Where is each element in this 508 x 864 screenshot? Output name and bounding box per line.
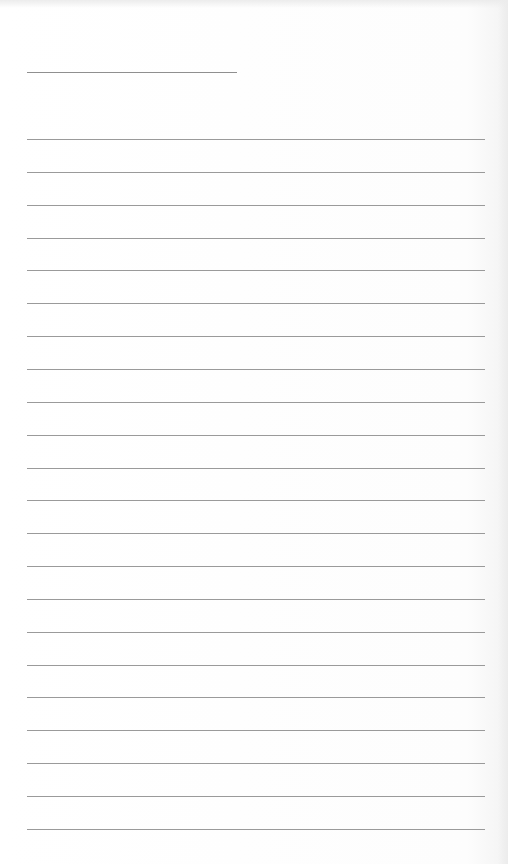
ruled-line — [27, 697, 485, 698]
ruled-line — [27, 468, 485, 469]
page-top-shadow — [0, 0, 508, 8]
ruled-line — [27, 665, 485, 666]
ruled-line — [27, 500, 485, 501]
ruled-line — [27, 730, 485, 731]
ruled-line — [27, 205, 485, 206]
ruled-line — [27, 599, 485, 600]
ruled-line — [27, 336, 485, 337]
ruled-line — [27, 270, 485, 271]
ruled-line — [27, 533, 485, 534]
ruled-line — [27, 402, 485, 403]
ruled-line — [27, 796, 485, 797]
ruled-line — [27, 238, 485, 239]
ruled-line — [27, 566, 485, 567]
ruled-line — [27, 435, 485, 436]
page-edge-shadow — [498, 0, 508, 864]
ruled-line — [27, 139, 485, 140]
ruled-line — [27, 763, 485, 764]
ruled-line — [27, 829, 485, 830]
ruled-line — [27, 303, 485, 304]
header-name-line — [27, 72, 237, 73]
ruled-line — [27, 632, 485, 633]
ruled-line — [27, 369, 485, 370]
ruled-line — [27, 172, 485, 173]
